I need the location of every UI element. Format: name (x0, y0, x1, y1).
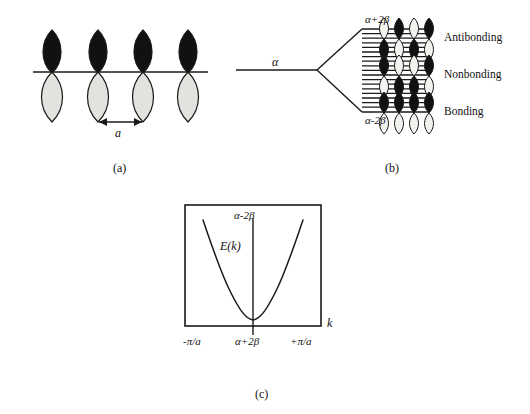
orbital-pair (410, 18, 419, 60)
row-label-bonding: Bonding (444, 105, 484, 117)
caption-panel-b: (b) (385, 161, 399, 176)
orbital-lobe-bottom (88, 72, 109, 122)
orbital-lobe-bottom (178, 72, 199, 122)
p-orbital-4 (178, 30, 199, 122)
orbital-lobe-top (395, 18, 404, 39)
orbital-lobe-bottom (425, 113, 434, 134)
orbital-lobe-top (410, 92, 419, 113)
orbital-lobe-top (410, 18, 419, 39)
orbital-lobe-top (43, 30, 61, 73)
panel-c: α-2β E(k) k -π/a α+2β +π/a (150, 195, 380, 360)
orbital-pair (410, 92, 419, 134)
orbital-pair (410, 55, 419, 97)
orbital-lobe-top (395, 55, 404, 76)
panel-b: α α+2β α-2β Antibonding Nonbonding Bondi… (232, 0, 530, 190)
orbital-lobe-bottom (410, 113, 419, 134)
orbital-lobe-top (410, 55, 419, 76)
orbital-pair (395, 18, 404, 60)
orbital-lobe-top (89, 30, 107, 73)
x-tick-label-center: α+2β (235, 335, 259, 347)
caption-panel-a: (a) (113, 161, 126, 176)
orbital-pair (425, 92, 434, 134)
p-orbital-1 (42, 30, 63, 122)
lattice-spacing-label: a (115, 126, 121, 141)
row-label-nonbonding: Nonbonding (444, 68, 502, 80)
orbital-pair (395, 92, 404, 134)
x-tick-label-left: -π/a (183, 335, 201, 347)
energy-function-label: E(k) (220, 239, 241, 254)
caption-panel-c: (c) (255, 387, 268, 402)
p-orbital-3 (133, 30, 154, 122)
orbital-pair (380, 55, 389, 97)
orbital-lobe-bottom (133, 72, 154, 122)
fan-lines (317, 29, 362, 112)
top-band-edge-label: α+2β (365, 13, 389, 25)
orbital-lobe-bottom (42, 72, 63, 122)
atomic-level-label: α (272, 55, 278, 70)
orbital-lobe-top (425, 92, 434, 113)
orbital-lobe-bottom (395, 113, 404, 134)
x-tick-label-right: +π/a (290, 335, 312, 347)
k-axis-label: k (327, 316, 332, 331)
bottom-band-edge-label: α-2β (365, 114, 385, 126)
orbital-lobe-top (380, 92, 389, 113)
orbital-lobe-top (425, 18, 434, 39)
orbital-chain (33, 30, 208, 126)
fan-line-upper (317, 29, 362, 70)
fan-line-lower (317, 70, 362, 112)
orbital-pair (425, 18, 434, 60)
orbital-lobe-top (134, 30, 152, 73)
row-label-antibonding: Antibonding (444, 31, 502, 43)
figure-root: a (a) (0, 0, 530, 414)
orbital-lobe-top (179, 30, 197, 73)
orbital-lobe-top (380, 55, 389, 76)
p-orbital-2 (88, 30, 109, 122)
orbital-pair (425, 55, 434, 97)
orbital-lobe-top (395, 92, 404, 113)
orbital-pair (395, 55, 404, 97)
band-top-label: α-2β (234, 209, 254, 221)
orbital-pair (380, 92, 389, 134)
orbital-lobe-top (425, 55, 434, 76)
lattice-spacing-arrow (99, 118, 142, 126)
